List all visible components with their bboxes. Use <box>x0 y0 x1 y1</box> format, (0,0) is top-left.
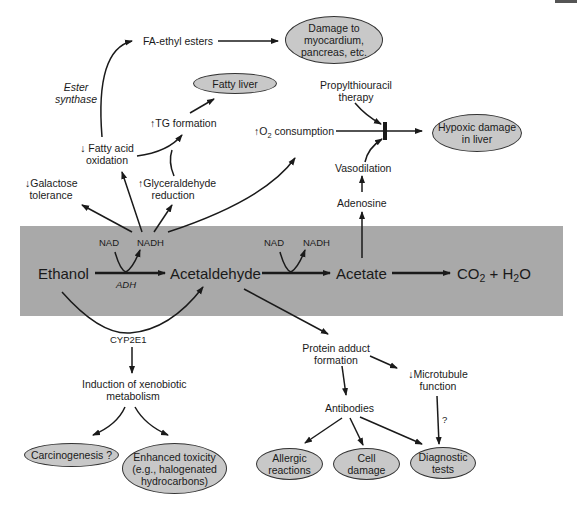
fatty-liver-ellipse: Fatty liver <box>193 73 277 94</box>
ethanol-metabolism-diagram: Ethanol Acetaldehyde Acetate CO2 + H2O N… <box>0 0 577 509</box>
nadh-label-1: NADH <box>137 237 164 249</box>
adenosine-label: Adenosine <box>337 197 387 209</box>
o2-consumption-label: ↑O2 consumption <box>254 125 334 137</box>
fa-ethyl-esters-label: FA-ethyl esters <box>143 35 213 47</box>
uncertain-link-label: ? <box>442 414 447 426</box>
antibodies-label: Antibodies <box>325 402 374 414</box>
allergic-reactions-ellipse: Allergic reactions <box>256 448 323 480</box>
nad-label-1: NAD <box>99 237 119 249</box>
microtubule-function-label: ↓Microtubulefunction <box>405 368 471 392</box>
nadh-label-2: NADH <box>303 237 330 249</box>
acetaldehyde-label: Acetaldehyde <box>170 265 261 282</box>
fatty-acid-oxidation-label: ↓ Fatty acidoxidation <box>76 142 138 166</box>
acetate-label: Acetate <box>336 265 387 282</box>
connector-arrows <box>0 0 577 509</box>
tg-formation-label: ↑TG formation <box>150 117 217 129</box>
propylthiouracil-label: Propylthiouraciltherapy <box>318 79 394 103</box>
galactose-tolerance-label: ↓Galactosetolerance <box>25 177 77 201</box>
protein-adduct-label: Protein adductformation <box>302 342 370 366</box>
adh-enzyme-label: ADH <box>116 279 136 291</box>
glyceraldehyde-reduction-label: ↑Glyceraldehydereduction <box>138 177 208 201</box>
vasodilation-label: Vasodilation <box>335 162 391 174</box>
cyp2e1-label: CYP2E1 <box>110 334 146 346</box>
cell-damage-ellipse: Cell damage <box>333 448 400 480</box>
nad-label-2: NAD <box>264 237 284 249</box>
enhanced-toxicity-ellipse: Enhanced toxicity (e.g., halogenated hyd… <box>122 443 227 494</box>
hypoxic-damage-ellipse: Hypoxic damage in liver <box>432 114 522 152</box>
ester-synthase-label: Estersynthase <box>55 81 97 105</box>
ethanol-label: Ethanol <box>38 265 89 282</box>
damage-myocardium-ellipse: Damage to myocardium, pancreas, etc. <box>285 16 383 64</box>
products-label: CO2 + H2O <box>457 265 531 282</box>
diagnostic-tests-ellipse: Diagnostic tests <box>410 447 476 479</box>
carcinogenesis-ellipse: Carcinogenesis ? <box>24 443 119 467</box>
induction-xenobiotic-label: Induction of xenobioticmetabolism <box>82 378 184 402</box>
